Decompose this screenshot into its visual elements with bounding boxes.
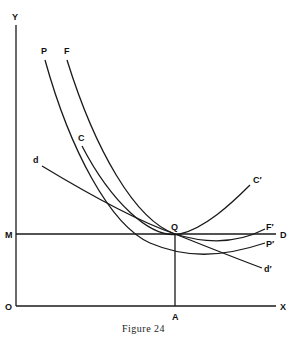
label-c: C [78, 133, 85, 143]
label-m: M [5, 230, 13, 240]
figure-diagram: Y X O M Q A D P F C d C′ F′ P′ d′ Figure… [0, 0, 292, 340]
label-f: F [64, 46, 70, 56]
label-o: O [5, 302, 12, 312]
label-a: A [172, 312, 179, 322]
curve-p [45, 60, 265, 254]
label-d-point: D [280, 230, 287, 240]
curve-f [67, 60, 265, 241]
label-c-prime: C′ [253, 175, 262, 185]
label-p-prime: P′ [266, 239, 274, 249]
label-y: Y [12, 12, 18, 22]
label-q: Q [171, 222, 178, 232]
label-d: d [33, 155, 39, 165]
label-x: X [280, 302, 286, 312]
figure-caption: Figure 24 [122, 323, 165, 334]
label-f-prime: F′ [266, 222, 274, 232]
label-p: P [41, 46, 47, 56]
label-d-prime: d′ [264, 264, 272, 274]
